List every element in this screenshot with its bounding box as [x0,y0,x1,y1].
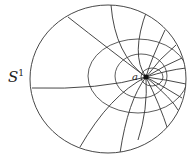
diagram-canvas [0,0,193,158]
circle-label-text: S [8,68,18,86]
circle-label: S1 [8,68,24,86]
point-label: a [132,71,138,82]
focal-point-a [144,75,149,80]
circle-label-superscript: 1 [18,68,24,78]
